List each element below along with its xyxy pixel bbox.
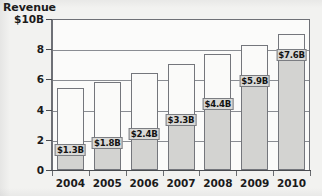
bar-segment-lower-2007[interactable] xyxy=(168,120,195,170)
y-tick-mark xyxy=(46,140,52,141)
x-tick-mark xyxy=(199,171,200,176)
x-tick-mark xyxy=(126,171,127,176)
data-label-2004: $1.3B xyxy=(55,144,86,156)
x-tick-mark xyxy=(52,171,53,176)
data-label-2009: $5.9B xyxy=(239,75,270,87)
bar-2008[interactable] xyxy=(204,54,231,170)
x-tick-mark xyxy=(310,171,311,176)
x-tick-label-2008: 2008 xyxy=(203,177,232,189)
bar-segment-upper-2007[interactable] xyxy=(168,64,195,120)
y-tick-label: 4 xyxy=(37,104,44,116)
bar-segment-lower-2010[interactable] xyxy=(278,55,305,170)
data-label-2010: $7.6B xyxy=(276,49,307,61)
y-tick-mark xyxy=(46,19,52,20)
x-tick-label-2006: 2006 xyxy=(130,177,159,189)
y-tick-label: 6 xyxy=(37,73,44,85)
data-label-2006: $2.4B xyxy=(129,128,160,140)
gridline-8 xyxy=(53,50,309,51)
x-tick-mark xyxy=(163,171,164,176)
bar-2004[interactable] xyxy=(57,88,84,170)
y-tick-label: $10B xyxy=(14,13,44,25)
y-tick-mark xyxy=(46,79,52,80)
bar-segment-upper-2005[interactable] xyxy=(94,82,121,142)
data-label-2005: $1.8B xyxy=(92,137,123,149)
bar-segment-upper-2006[interactable] xyxy=(131,73,158,133)
bar-2006[interactable] xyxy=(131,73,158,170)
bar-segment-upper-2004[interactable] xyxy=(57,88,84,150)
x-tick-label-2004: 2004 xyxy=(56,177,85,189)
revenue-stacked-bar-chart: Revenue $10B86420 2004200520062007200820… xyxy=(0,0,322,196)
y-tick-label: 8 xyxy=(37,43,44,55)
bar-segment-lower-2008[interactable] xyxy=(204,104,231,170)
data-label-2008: $4.4B xyxy=(202,98,233,110)
bar-2009[interactable] xyxy=(241,45,268,170)
data-label-2007: $3.3B xyxy=(166,114,197,126)
x-tick-mark xyxy=(236,171,237,176)
y-axis-line xyxy=(51,19,52,171)
y-tick-label: 0 xyxy=(37,164,44,176)
x-axis-line xyxy=(51,170,311,171)
x-tick-label-2005: 2005 xyxy=(93,177,122,189)
bar-segment-lower-2009[interactable] xyxy=(241,81,268,170)
y-tick-label: 2 xyxy=(37,134,44,146)
x-tick-mark xyxy=(89,171,90,176)
y-tick-mark xyxy=(46,110,52,111)
x-tick-label-2007: 2007 xyxy=(166,177,195,189)
x-tick-label-2009: 2009 xyxy=(240,177,269,189)
y-tick-mark xyxy=(46,49,52,50)
x-tick-label-2010: 2010 xyxy=(277,177,306,189)
x-tick-mark xyxy=(273,171,274,176)
bar-segment-upper-2008[interactable] xyxy=(204,54,231,104)
bar-2005[interactable] xyxy=(94,82,121,170)
